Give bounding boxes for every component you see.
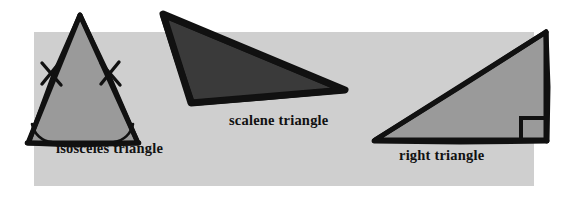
label-isosceles-triangle: isosceles triangle [56,140,163,157]
triangle-types-figure: isosceles triangle scalene triangle righ… [0,0,572,203]
triangles-artwork [0,0,572,203]
label-right-triangle: right triangle [399,147,484,164]
scalene-triangle-shape [163,14,345,103]
isosceles-triangle-shape [27,15,139,145]
right-triangle-shape [374,32,548,142]
label-scalene-triangle: scalene triangle [229,112,328,129]
right-triangle-vertical-leg [546,32,548,141]
